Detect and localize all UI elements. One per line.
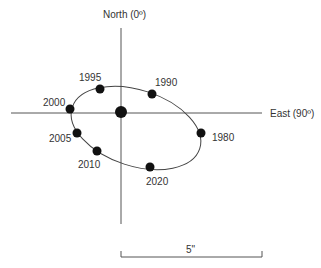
scale-bar: 5" bbox=[121, 244, 262, 257]
east-label: East (90º) bbox=[270, 108, 314, 119]
orbit-point-1980 bbox=[197, 129, 206, 138]
scale-bar-label: 5" bbox=[186, 244, 196, 255]
north-label: North (0º) bbox=[103, 9, 146, 20]
orbit-point-1990 bbox=[148, 90, 157, 99]
orbit-point-label: 1995 bbox=[79, 72, 102, 83]
primary-star-dot bbox=[115, 106, 127, 118]
orbit-point-label: 2000 bbox=[43, 97, 66, 108]
orbit-point-label: 2010 bbox=[78, 159, 101, 170]
orbit-point-label: 2005 bbox=[49, 133, 72, 144]
orbit-point-2005 bbox=[73, 129, 82, 138]
orbit-point-2010 bbox=[93, 147, 102, 156]
orbit-point-label: 2020 bbox=[146, 176, 169, 187]
orbit-point-label: 1990 bbox=[155, 77, 178, 88]
orbit-point-1995 bbox=[96, 85, 105, 94]
orbit-point-2020 bbox=[146, 163, 155, 172]
orbit-point-2000 bbox=[66, 105, 75, 114]
orbit-point-label: 1980 bbox=[212, 132, 235, 143]
orbit-diagram: 1980199019952000200520102020 North (0º) … bbox=[0, 0, 321, 268]
